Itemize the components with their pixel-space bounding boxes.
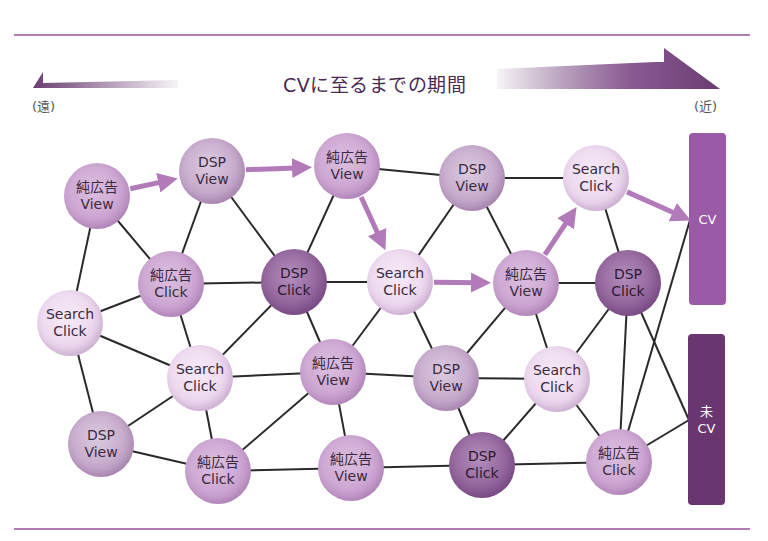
node-label-line1: DSP: [468, 448, 496, 465]
outcome-not-cv: 未 CV: [688, 334, 725, 505]
node-label-line2: View: [195, 171, 228, 188]
node-label-line1: Search: [533, 362, 581, 379]
node-label-line2: Click: [579, 178, 612, 195]
node-dspclick: DSPClick: [449, 432, 515, 498]
node-search: SearchClick: [563, 145, 629, 211]
node-label-line1: DSP: [614, 266, 642, 283]
not-cv-label-2: CV: [698, 420, 716, 437]
path-arrow-icon: [361, 197, 382, 242]
bottom-rule: [14, 528, 750, 530]
node-label-line2: Click: [465, 465, 498, 482]
node-pure: 純広告View: [300, 339, 366, 405]
node-label-line2: Click: [154, 284, 187, 301]
not-cv-label-1: 未: [700, 403, 713, 420]
node-label-line2: Click: [611, 283, 644, 300]
node-label-line2: View: [509, 283, 542, 300]
node-dspview: DSPView: [413, 345, 479, 411]
node-label-line1: Search: [176, 361, 224, 378]
node-label-line2: Click: [602, 462, 635, 479]
node-label-line1: DSP: [458, 161, 486, 178]
node-label-line2: Click: [53, 323, 86, 340]
node-label-line1: 純広告: [197, 454, 239, 471]
node-pure: 純広告View: [493, 250, 559, 316]
node-label-line2: View: [316, 372, 349, 389]
node-label-line2: Click: [183, 378, 216, 395]
node-dspview: DSPView: [179, 138, 245, 204]
node-label-line1: DSP: [198, 154, 226, 171]
node-pure: 純広告Click: [138, 251, 204, 317]
node-label-line1: Search: [46, 306, 94, 323]
node-label-line1: 純広告: [326, 149, 368, 166]
node-label-line1: 純広告: [76, 179, 118, 196]
cv-label: CV: [699, 211, 717, 228]
node-label-line1: Search: [376, 265, 424, 282]
node-label-line2: Click: [277, 282, 310, 299]
node-label-line2: View: [80, 196, 113, 213]
node-search: SearchClick: [167, 345, 233, 411]
node-label-line2: Click: [540, 379, 573, 396]
path-arrow-icon: [246, 168, 303, 170]
node-pure: 純広告View: [318, 435, 384, 501]
node-pure: 純広告Click: [185, 438, 251, 504]
node-label-line1: 純広告: [150, 267, 192, 284]
node-label-line2: Click: [201, 471, 234, 488]
node-label-line2: View: [84, 444, 117, 461]
node-label-line1: 純広告: [598, 445, 640, 462]
path-arrow-icon: [545, 215, 572, 255]
node-search: SearchClick: [524, 346, 590, 412]
node-label-line1: 純広告: [505, 266, 547, 283]
node-pure: 純広告View: [314, 133, 380, 199]
path-arrow-icon: [627, 192, 683, 217]
node-label-line1: 純広告: [330, 451, 372, 468]
node-label-line1: Search: [572, 161, 620, 178]
node-label-line1: DSP: [280, 265, 308, 282]
node-dspclick: DSPClick: [595, 250, 661, 316]
outcome-cv: CV: [689, 133, 726, 305]
node-pure: 純広告View: [64, 163, 130, 229]
node-dspview: DSPView: [68, 411, 134, 477]
node-search: SearchClick: [37, 290, 103, 356]
node-label-line2: View: [429, 378, 462, 395]
node-label-line1: DSP: [87, 427, 115, 444]
node-label-line2: View: [455, 178, 488, 195]
node-label-line2: View: [334, 468, 367, 485]
path-arrow-icon: [130, 180, 169, 188]
node-label-line1: DSP: [432, 361, 460, 378]
node-label-line1: 純広告: [312, 355, 354, 372]
node-label-line2: View: [330, 166, 363, 183]
node-label-line2: Click: [383, 282, 416, 299]
node-dspview: DSPView: [439, 145, 505, 211]
node-pure: 純広告Click: [586, 429, 652, 495]
node-search: SearchClick: [367, 249, 433, 315]
node-dspclick: DSPClick: [261, 249, 327, 315]
